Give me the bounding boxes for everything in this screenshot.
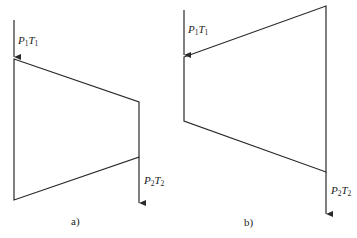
caption-b: b): [244, 216, 254, 229]
diagram-canvas: P1T1 P2T2 a) P1T1 P2T2 b): [0, 0, 357, 238]
caption-a: a): [71, 215, 80, 228]
outlet-label: P2T2: [143, 174, 165, 188]
diagram-a: P1T1 P2T2 a): [14, 20, 165, 228]
converging-trapezoid: [14, 59, 139, 200]
outlet-label: P2T2: [330, 184, 352, 198]
inlet-label: P1T1: [17, 34, 39, 48]
diagram-b: P1T1 P2T2 b): [184, 6, 352, 229]
inlet-label: P1T1: [187, 23, 209, 37]
